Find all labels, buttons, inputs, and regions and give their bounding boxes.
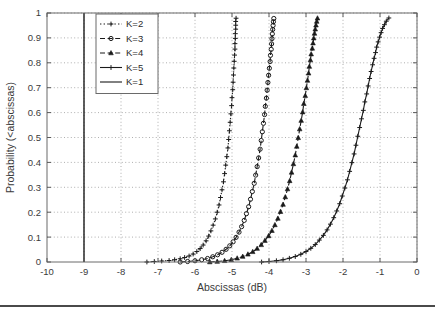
legend-label: K=3 [126, 33, 143, 44]
x-tick-label: -7 [154, 266, 162, 277]
x-axis-label: Abscissas (dB) [197, 281, 267, 293]
y-tick-label: 0.3 [28, 182, 41, 193]
legend-label: K=1 [126, 76, 143, 87]
x-tick-label: -6 [191, 266, 199, 277]
x-tick-label: -5 [228, 266, 236, 277]
y-tick-label: 0.9 [28, 32, 41, 43]
y-tick-label: 0.8 [28, 57, 41, 68]
y-tick-label: 1 [36, 7, 41, 18]
y-tick-label: 0.4 [28, 157, 41, 168]
x-tick-label: -10 [40, 266, 54, 277]
y-tick-label: 0.2 [28, 207, 41, 218]
x-tick-label: 0 [414, 266, 419, 277]
x-tick-label: -1 [376, 266, 384, 277]
legend-label: K=5 [126, 62, 143, 73]
x-tick-label: -9 [80, 266, 88, 277]
y-axis-label: Probability (<abscissas) [4, 82, 16, 193]
legend-label: K=4 [126, 47, 143, 58]
y-tick-label: 0.5 [28, 132, 41, 143]
legend-label: K=2 [126, 18, 143, 29]
x-tick-label: -8 [117, 266, 125, 277]
y-tick-label: 0 [36, 256, 41, 267]
y-tick-label: 0.1 [28, 232, 41, 243]
y-tick-label: 0.6 [28, 107, 41, 118]
figure-container: -10-9-8-7-6-5-4-3-2-1000.10.20.30.40.50.… [0, 0, 435, 309]
x-tick-label: -3 [302, 266, 310, 277]
x-tick-label: -2 [339, 266, 347, 277]
y-tick-label: 0.7 [28, 82, 41, 93]
bottom-divider-rule [0, 305, 435, 307]
probability-cdf-chart: -10-9-8-7-6-5-4-3-2-1000.10.20.30.40.50.… [0, 0, 435, 309]
x-tick-label: -4 [265, 266, 273, 277]
